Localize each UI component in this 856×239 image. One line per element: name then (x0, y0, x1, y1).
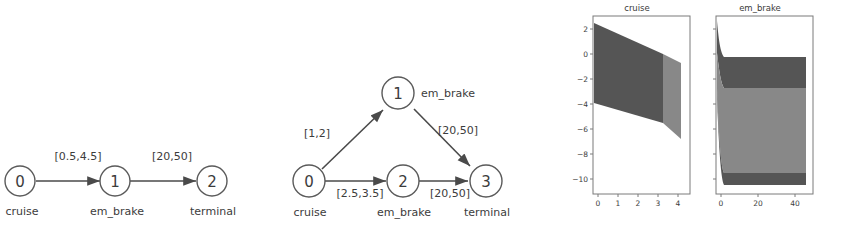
cruise-xtick-3: 3 (656, 199, 661, 208)
graph-b-edge-label-2-3: [20,50] (430, 187, 470, 200)
graph-b-svg: [1,2] [20,50] [2.5,3.5] [20,50] 1 em_bra… (280, 0, 570, 239)
cruise-ytick-1: 0 (583, 50, 588, 59)
graph-b-edge-label-0-1: [1,2] (304, 127, 330, 140)
cruise-ytick-2: −2 (577, 75, 588, 84)
cruise-xtick-2: 2 (636, 199, 641, 208)
graph-b-node-0-label: 0 (304, 173, 314, 191)
cruise-axes: 2 0 −2 −4 −6 −8 −10 (572, 16, 690, 208)
plots-svg: cruise em_brake 2 0 (570, 0, 856, 239)
cruise-reach-band-dark (594, 23, 663, 123)
graph-b-state-label-1: em_brake (421, 87, 475, 100)
graph-a-edge-label-1-2: [20,50] (152, 150, 192, 163)
graph-a-state-label-1: em_brake (90, 205, 144, 218)
cruise-xtick-1: 1 (616, 199, 621, 208)
em-brake-xtick-0: 0 (719, 199, 724, 208)
graph-b-edge-label-0-2: [2.5,3.5] (336, 187, 383, 200)
graph-b-edge-label-1-3: [20,50] (438, 124, 478, 137)
cruise-xtick-0: 0 (596, 199, 601, 208)
cruise-x-axis: 0 1 2 3 4 (596, 194, 681, 208)
graph-b-edge-0-1 (322, 110, 383, 169)
em-brake-axes: 0 20 40 (713, 16, 813, 208)
graph-b-state-label-3: terminal (464, 206, 510, 219)
graph-a-edge-label-0-1: [0.5,4.5] (54, 150, 101, 163)
em-brake-x-axis: 0 20 40 (719, 194, 800, 208)
graph-b-state-label-2: em_brake (377, 206, 431, 219)
cruise-y-axis: 2 0 −2 −4 −6 −8 −10 (572, 25, 593, 184)
cruise-ytick-3: −4 (577, 100, 588, 109)
graph-a-svg: [0.5,4.5] [20,50] 0 cruise 1 em_brake 2 … (0, 0, 290, 239)
graph-b-state-label-0: cruise (293, 206, 326, 219)
graph-b-edge-1-3 (414, 109, 470, 166)
cruise-reach-band-light (663, 54, 681, 139)
graph-panel-a: [0.5,4.5] [20,50] 0 cruise 1 em_brake 2 … (0, 0, 290, 239)
graph-a-node-0-label: 0 (15, 173, 25, 191)
graph-b-node-3-label: 3 (481, 173, 491, 191)
em-brake-band-upper-dark (717, 21, 806, 88)
plot-title-em-brake: em_brake (739, 3, 781, 13)
cruise-xtick-4: 4 (676, 199, 681, 208)
graph-a-state-label-0: cruise (5, 205, 38, 218)
em-brake-xtick-1: 20 (753, 199, 763, 208)
cruise-ytick-6: −10 (572, 175, 588, 184)
em-brake-data-bands (717, 21, 806, 185)
em-brake-xtick-2: 40 (790, 199, 800, 208)
graph-b-node-1-label: 1 (393, 85, 403, 103)
cruise-ytick-5: −8 (577, 150, 588, 159)
reachability-plots-panel: cruise em_brake 2 0 (570, 0, 856, 239)
cruise-ytick-4: −6 (577, 125, 588, 134)
plot-title-cruise: cruise (624, 3, 650, 13)
cruise-ytick-0: 2 (583, 25, 588, 34)
graph-a-state-label-2: terminal (190, 205, 236, 218)
graph-b-node-2-label: 2 (398, 173, 408, 191)
graph-panel-b: [1,2] [20,50] [2.5,3.5] [20,50] 1 em_bra… (280, 0, 570, 239)
graph-a-node-1-label: 1 (110, 173, 120, 191)
cruise-data-bands (594, 23, 681, 139)
figure-root: [0.5,4.5] [20,50] 0 cruise 1 em_brake 2 … (0, 0, 856, 239)
graph-a-node-2-label: 2 (207, 173, 217, 191)
